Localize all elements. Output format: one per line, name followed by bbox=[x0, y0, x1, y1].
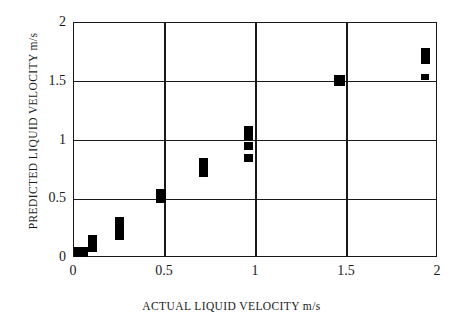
data-point bbox=[156, 189, 166, 203]
data-point bbox=[74, 247, 88, 258]
data-point bbox=[88, 241, 97, 252]
scatter-plot-figure: 00.511.52 00.511.52 ACTUAL LIQUID VELOCI… bbox=[0, 0, 463, 327]
x-tick-label: 2 bbox=[434, 263, 441, 279]
x-tick-label: 0.5 bbox=[155, 263, 173, 279]
gridline-horizontal-2 bbox=[74, 140, 436, 141]
data-point bbox=[244, 154, 253, 162]
x-tick-label: 1 bbox=[252, 263, 259, 279]
x-axis-title: ACTUAL LIQUID VELOCITY m/s bbox=[0, 300, 463, 312]
x-tick-label: 1.5 bbox=[337, 263, 355, 279]
data-point bbox=[421, 48, 430, 54]
data-point bbox=[115, 217, 124, 223]
y-axis-title: PREDICTED LIQUID VELOCITY m/s bbox=[27, 6, 39, 256]
gridline-horizontal-1 bbox=[74, 199, 436, 200]
x-tick-label: 0 bbox=[70, 263, 77, 279]
data-point bbox=[421, 52, 430, 64]
plot-area bbox=[73, 22, 437, 257]
gridline-horizontal-3 bbox=[74, 81, 436, 82]
data-point bbox=[88, 235, 97, 242]
data-point bbox=[244, 142, 253, 150]
data-point bbox=[334, 75, 345, 86]
data-point bbox=[244, 126, 253, 140]
data-point bbox=[421, 74, 429, 80]
data-point bbox=[199, 158, 208, 164]
data-point bbox=[115, 222, 124, 240]
